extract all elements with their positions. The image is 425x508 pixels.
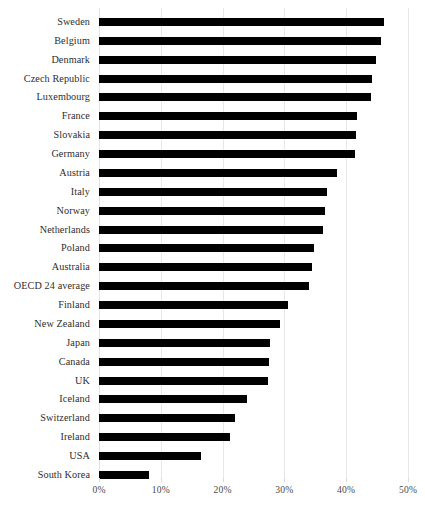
category-label: Iceland <box>0 393 90 404</box>
category-label: Poland <box>0 242 90 253</box>
bar <box>99 339 270 347</box>
tick-mark <box>346 478 347 482</box>
bar <box>99 93 371 101</box>
category-label: Belgium <box>0 35 90 46</box>
bar <box>99 131 356 139</box>
category-label: Finland <box>0 299 90 310</box>
bar <box>99 282 309 290</box>
bar <box>99 395 247 403</box>
bar <box>99 37 381 45</box>
bar-chart: SwedenBelgiumDenmarkCzech RepublicLuxemb… <box>0 0 425 508</box>
plot-area <box>99 8 408 478</box>
category-axis: SwedenBelgiumDenmarkCzech RepublicLuxemb… <box>0 0 95 508</box>
category-label: Switzerland <box>0 412 90 423</box>
bar <box>99 433 230 441</box>
bar <box>99 207 325 215</box>
category-label: Luxembourg <box>0 91 90 102</box>
category-label: Italy <box>0 186 90 197</box>
category-label: Ireland <box>0 431 90 442</box>
value-tick-label: 20% <box>203 484 243 495</box>
gridline-50pct <box>408 8 409 478</box>
bar <box>99 18 384 26</box>
bar <box>99 150 355 158</box>
value-tick-label: 10% <box>141 484 181 495</box>
category-label: Denmark <box>0 54 90 65</box>
category-label: Austria <box>0 167 90 178</box>
bar <box>99 75 372 83</box>
category-label: France <box>0 110 90 121</box>
tick-mark <box>408 478 409 482</box>
category-label: Sweden <box>0 16 90 27</box>
bar <box>99 377 268 385</box>
bar <box>99 414 235 422</box>
tick-mark <box>99 478 100 482</box>
value-tick-label: 40% <box>326 484 366 495</box>
value-tick-label: 50% <box>388 484 425 495</box>
tick-mark <box>161 478 162 482</box>
tick-mark <box>284 478 285 482</box>
category-label: Netherlands <box>0 224 90 235</box>
bar <box>99 112 357 120</box>
bar <box>99 56 376 64</box>
bar <box>99 226 323 234</box>
category-label: OECD 24 average <box>0 280 90 291</box>
bar <box>99 263 312 271</box>
bar <box>99 244 314 252</box>
category-label: Norway <box>0 205 90 216</box>
category-label: Canada <box>0 356 90 367</box>
value-tick-label: 30% <box>264 484 304 495</box>
bar <box>99 452 201 460</box>
value-axis: 0%10%20%30%40%50% <box>0 478 425 508</box>
bar <box>99 169 337 177</box>
value-tick-label: 0% <box>79 484 119 495</box>
category-label: Slovakia <box>0 129 90 140</box>
bar <box>99 358 269 366</box>
category-label: Czech Republic <box>0 73 90 84</box>
category-label: USA <box>0 450 90 461</box>
tick-mark <box>223 478 224 482</box>
category-label: UK <box>0 375 90 386</box>
category-label: Germany <box>0 148 90 159</box>
category-label: New Zealand <box>0 318 90 329</box>
bar <box>99 301 288 309</box>
category-label: Japan <box>0 337 90 348</box>
bar <box>99 188 327 196</box>
bar <box>99 320 280 328</box>
category-label: Australia <box>0 261 90 272</box>
